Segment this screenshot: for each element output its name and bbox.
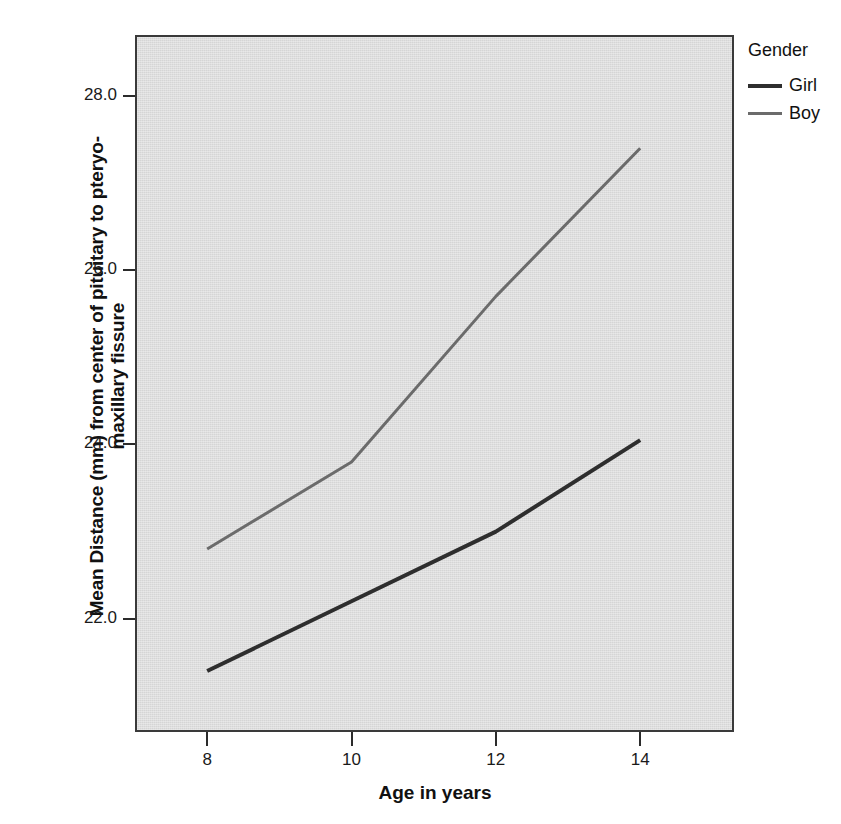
x-axis-tick: [639, 732, 641, 746]
legend-item-girl[interactable]: Girl: [748, 75, 840, 96]
legend-item-label: Boy: [789, 103, 820, 124]
y-axis-title-line1: Mean Distance (mm) from center of pituit…: [86, 136, 107, 616]
y-axis-tick: [123, 443, 135, 445]
series-line-girl: [207, 440, 640, 671]
x-axis-tick: [206, 732, 208, 746]
legend-item-label: Girl: [789, 75, 817, 96]
legend-swatch-icon: [748, 84, 782, 88]
y-axis-tick-label: 22.0: [55, 608, 117, 628]
line-chart: Mean Distance (mm) from center of pituit…: [0, 0, 841, 824]
legend-items: GirlBoy: [748, 75, 840, 124]
x-axis-tick: [495, 732, 497, 746]
legend-item-boy[interactable]: Boy: [748, 103, 840, 124]
y-axis-tick: [123, 269, 135, 271]
x-axis-tick-label: 14: [610, 750, 670, 770]
y-axis-tick-label: 28.0: [55, 85, 117, 105]
x-axis-title: Age in years: [135, 782, 735, 804]
y-axis-tick-label: 24.0: [55, 433, 117, 453]
legend-swatch-icon: [748, 112, 782, 115]
y-axis-tick-label: 26.0: [55, 259, 117, 279]
legend-title: Gender: [748, 40, 840, 61]
y-axis-tick: [123, 618, 135, 620]
x-axis-tick-label: 12: [466, 750, 526, 770]
y-axis-tick: [123, 95, 135, 97]
series-lines: [135, 35, 734, 732]
x-axis-tick: [351, 732, 353, 746]
x-axis-tick-label: 10: [322, 750, 382, 770]
y-axis-title-line2: maxillary fissure: [107, 303, 128, 450]
x-axis-tick-label: 8: [177, 750, 237, 770]
legend: Gender GirlBoy: [748, 40, 840, 131]
series-line-boy: [207, 148, 640, 549]
